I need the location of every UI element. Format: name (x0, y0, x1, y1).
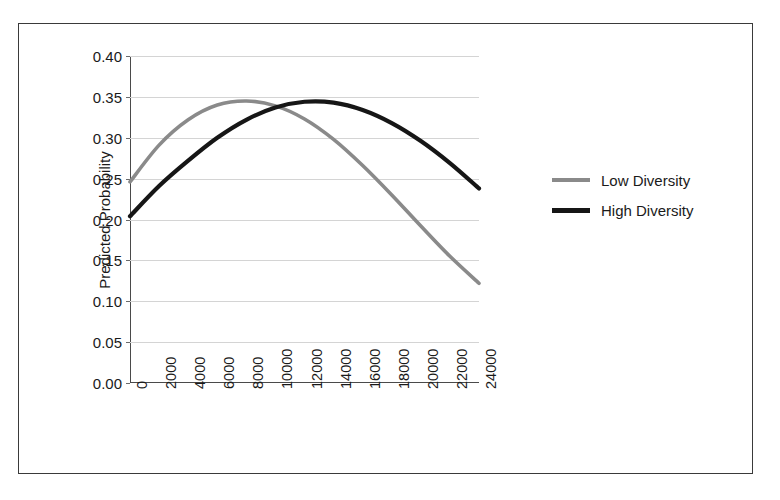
plot-area: 0.000.050.100.150.200.250.300.350.40 020… (130, 56, 479, 383)
y-tick-label: 0.05 (93, 335, 122, 350)
legend-label-high-diversity: High Diversity (601, 202, 694, 219)
y-tick-label: 0.00 (93, 376, 122, 391)
y-tick-label: 0.30 (93, 130, 122, 145)
series-curves (130, 56, 479, 383)
y-tick-label: 0.40 (93, 49, 122, 64)
legend-line-icon-low-diversity (552, 178, 590, 182)
legend-item-high-diversity: High Diversity (552, 195, 727, 225)
y-tick-label: 0.10 (93, 294, 122, 309)
y-tick-label: 0.35 (93, 89, 122, 104)
series-line-low-diversity (130, 101, 479, 283)
chart-figure-frame: 0.000.050.100.150.200.250.300.350.40 020… (18, 23, 753, 474)
legend-line-icon-high-diversity (552, 208, 590, 213)
legend-item-low-diversity: Low Diversity (552, 165, 727, 195)
y-axis-title: Predicted Probability (96, 151, 113, 289)
x-tick-label: 24000 (484, 349, 499, 389)
chart-legend: Low Diversity High Diversity (552, 165, 727, 225)
legend-label-low-diversity: Low Diversity (601, 172, 690, 189)
y-tick-mark (126, 383, 130, 384)
